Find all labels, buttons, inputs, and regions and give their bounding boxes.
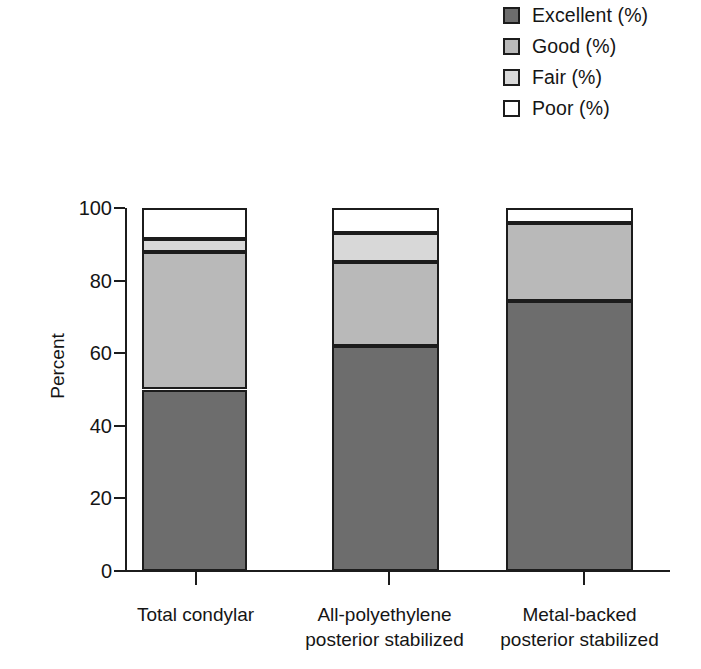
x-tick-mark <box>195 572 197 585</box>
x-axis-label-2: All-polyethyleneposterior stabilized <box>292 602 477 652</box>
bar-1[interactable] <box>142 208 247 571</box>
x-axis-label-line2: posterior stabilized <box>487 627 672 652</box>
y-tick-mark <box>114 425 125 427</box>
y-axis-line <box>125 208 127 572</box>
x-axis-label-line1: Metal-backed <box>487 602 672 627</box>
y-tick-mark <box>114 352 125 354</box>
stacked-bar-chart: Percent 020406080100 Total condylarAll-p… <box>0 0 701 669</box>
x-tick-mark <box>388 572 390 585</box>
x-axis-label-line1: All-polyethylene <box>292 602 477 627</box>
y-tick-mark <box>114 207 125 209</box>
bar-segment-excellent[interactable] <box>506 301 633 571</box>
bar-2[interactable] <box>332 208 439 571</box>
y-tick-label: 100 <box>56 198 112 218</box>
y-tick-label: 0 <box>56 561 112 581</box>
x-axis-label-line2: posterior stabilized <box>292 627 477 652</box>
bar-segment-good[interactable] <box>506 223 633 301</box>
x-axis-label-line1: Total condylar <box>108 602 283 627</box>
y-tick-mark <box>114 497 125 499</box>
y-tick-label: 20 <box>56 488 112 508</box>
y-tick-mark <box>114 280 125 282</box>
x-tick-mark <box>583 572 585 585</box>
bar-segment-good[interactable] <box>332 262 439 345</box>
x-axis-label-1: Total condylar <box>108 602 283 627</box>
y-tick-label: 60 <box>56 343 112 363</box>
bar-segment-fair[interactable] <box>142 239 247 252</box>
bar-segment-poor[interactable] <box>332 208 439 233</box>
y-axis-title: Percent <box>47 306 69 426</box>
bar-segment-good[interactable] <box>142 252 247 390</box>
bar-segment-poor[interactable] <box>142 208 247 239</box>
bar-segment-fair[interactable] <box>332 233 439 262</box>
bar-segment-poor[interactable] <box>506 208 633 223</box>
bar-3[interactable] <box>506 208 633 571</box>
bar-segment-excellent[interactable] <box>332 346 439 571</box>
y-tick-label: 80 <box>56 271 112 291</box>
y-tick-mark <box>114 570 125 572</box>
bar-segment-excellent[interactable] <box>142 390 247 572</box>
x-axis-label-3: Metal-backedposterior stabilized <box>487 602 672 652</box>
y-tick-label: 40 <box>56 416 112 436</box>
